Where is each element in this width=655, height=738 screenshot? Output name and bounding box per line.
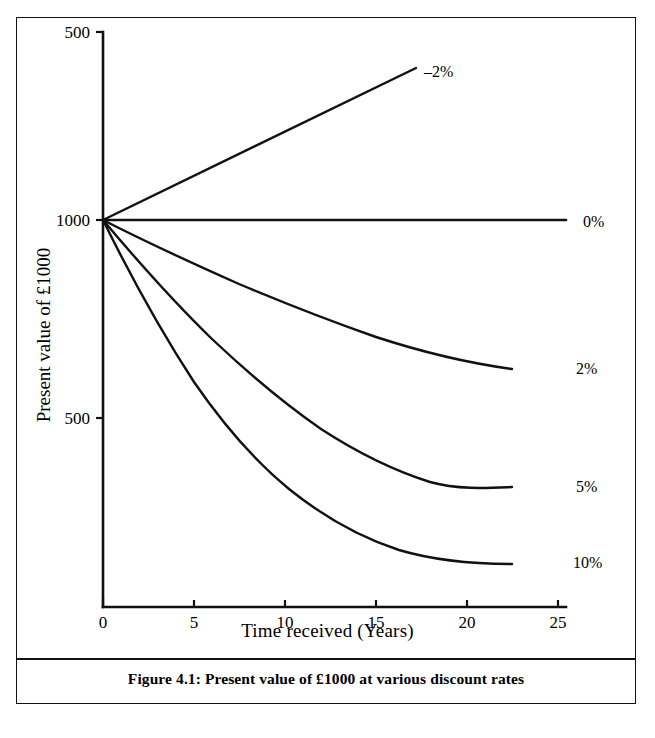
figure-border	[16, 17, 636, 704]
series-label-minus2: –2%	[424, 64, 453, 80]
caption-divider	[17, 658, 635, 660]
series-label-10: 10%	[573, 555, 602, 571]
series-label-5: 5%	[576, 479, 597, 495]
figure-container: 500 1000 500 0 5 10 15 20 25 –2% 0% 2% 5…	[0, 0, 655, 738]
y-axis-title: Present value of £1000	[33, 225, 55, 445]
y-tick-label-top: 500	[44, 24, 90, 41]
series-label-2: 2%	[576, 361, 597, 377]
series-label-0: 0%	[583, 214, 604, 230]
x-axis-title: Time received (Years)	[0, 620, 655, 642]
figure-caption: Figure 4.1: Present value of £1000 at va…	[17, 670, 635, 688]
